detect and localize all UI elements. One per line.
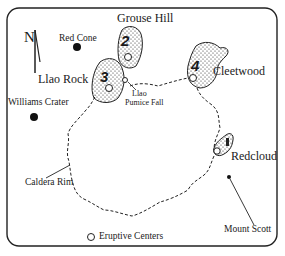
eruptive-center-4 (190, 75, 197, 82)
eruptive-center-2 (125, 54, 132, 61)
label-caldera-rim: Caldera Rim (25, 178, 73, 188)
label-mount-scott: Mount Scott (224, 225, 271, 235)
eruptive-center-1 (214, 148, 220, 154)
eruptive-center-llao-pumice (123, 78, 128, 83)
label-grouse-hill: Grouse Hill (117, 12, 173, 24)
north-arrow-icon (35, 30, 40, 73)
red-cone-marker (73, 43, 81, 51)
label-williams-crater: Williams Crater (8, 98, 69, 108)
eruptive-center-legend-icon (88, 234, 95, 241)
eruptive-center-3 (106, 85, 113, 92)
dome-number-4: 4 (191, 58, 199, 73)
dome-number-2: 2 (121, 33, 129, 48)
dome-number-3: 3 (100, 69, 108, 84)
label-pumice-fall: Pumice Fall (125, 99, 163, 107)
label-llao-rock: Llao Rock (38, 73, 88, 85)
label-red-cone: Red Cone (59, 34, 97, 44)
mount-scott-marker (227, 175, 231, 179)
label-llao: Llao (132, 90, 147, 98)
legend-eruptive-centers: Eruptive Centers (99, 232, 163, 242)
williams-crater-marker (30, 113, 38, 121)
map-canvas (0, 0, 285, 256)
north-label: N (24, 30, 35, 45)
label-cleetwood: Cleetwood (213, 65, 265, 77)
label-redcloud: Redcloud (231, 150, 277, 162)
